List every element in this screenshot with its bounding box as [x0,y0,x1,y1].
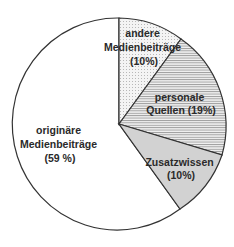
pie-chart: andere Medienbeiträge (10%) personale Qu… [0,0,234,247]
label-personale: personale Quellen (19%) [146,91,215,116]
